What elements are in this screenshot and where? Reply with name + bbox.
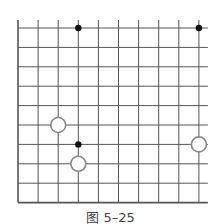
white-stone bbox=[71, 156, 86, 171]
black-stone bbox=[75, 25, 81, 31]
black-stone bbox=[75, 141, 81, 147]
white-stone bbox=[191, 137, 206, 152]
black-stone bbox=[196, 25, 202, 31]
go-board bbox=[0, 0, 221, 224]
figure-caption: 图 5–25 bbox=[0, 207, 221, 224]
white-stone bbox=[51, 118, 66, 133]
